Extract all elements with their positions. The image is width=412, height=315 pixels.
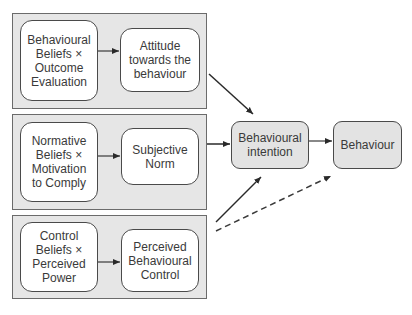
control-beliefs-box: Control Beliefs × Perceived Power [20,222,98,292]
edge-pbc-to-intention [216,177,261,222]
edge-pbc-to-behaviour-dashed [216,176,331,231]
normative-beliefs-box: Normative Beliefs × Motivation to Comply [20,122,98,202]
attitude-box: Attitude towards the behaviour [120,28,200,92]
perceived-control-box: Perceived Behavioural Control [121,229,199,292]
subjective-norm-box: Subjective Norm [121,128,199,185]
behavioural-beliefs-box: Behavioural Beliefs × Outcome Evaluation [20,20,98,101]
edge-attitude-to-intention [209,74,253,114]
behavioural-intention-box: Behavioural intention [231,121,309,169]
behaviour-box: Behaviour [333,121,402,169]
